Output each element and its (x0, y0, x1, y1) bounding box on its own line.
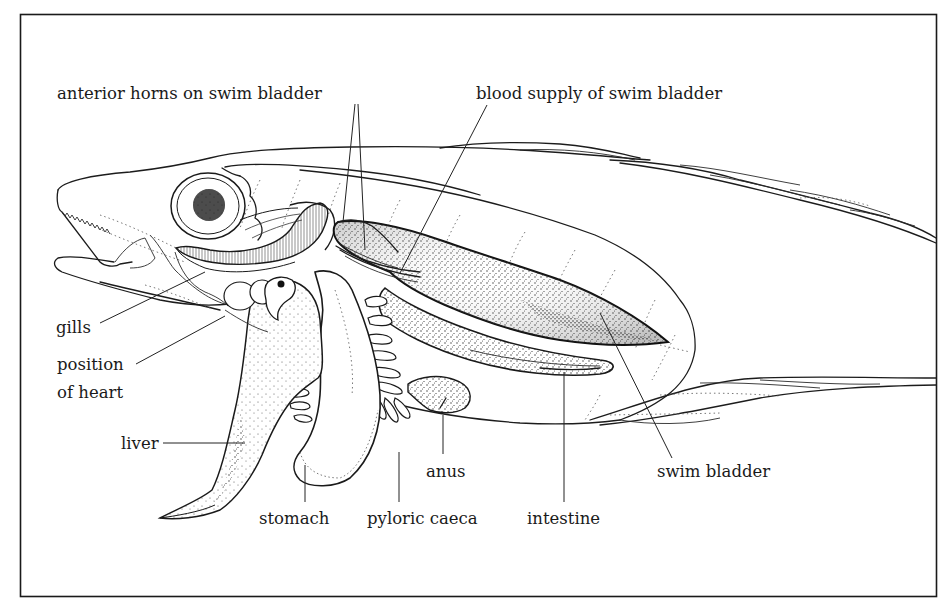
liver (160, 280, 322, 519)
label-intestine: intestine (527, 509, 600, 528)
rectum (408, 377, 470, 413)
label-pyloric-caeca: pyloric caeca (367, 509, 478, 528)
label-position-of-heart-1: position (57, 355, 124, 374)
label-stomach: stomach (259, 509, 330, 528)
fish-anatomy-diagram: anterior horns on swim bladder blood sup… (0, 0, 949, 606)
label-liver: liver (121, 434, 159, 453)
label-swim-bladder: swim bladder (657, 462, 770, 481)
eye (171, 173, 245, 239)
label-position-of-heart-2: of heart (57, 383, 123, 402)
label-anterior-horns: anterior horns on swim bladder (57, 84, 322, 103)
label-blood-supply: blood supply of swim bladder (476, 84, 722, 103)
label-gills: gills (56, 318, 91, 337)
label-anus: anus (426, 462, 466, 481)
